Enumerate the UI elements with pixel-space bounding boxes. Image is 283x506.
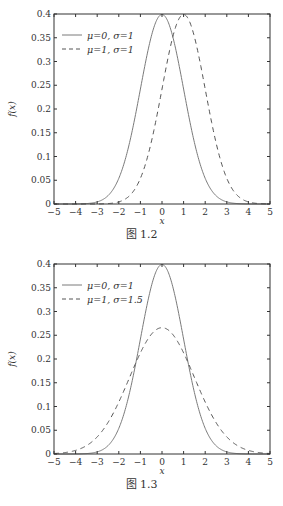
y-tick-label: 0.3 — [37, 57, 52, 67]
y-tick-label: 0.2 — [37, 354, 51, 364]
x-tick-label: 1 — [181, 457, 187, 467]
x-tick-label: 3 — [224, 457, 230, 467]
x-tick-label: −4 — [69, 457, 83, 467]
x-tick-label: −4 — [69, 207, 83, 217]
legend-label: μ=1, σ=1.5 — [87, 294, 143, 305]
x-tick-label: 1 — [181, 207, 187, 217]
legend: μ=0, σ=1μ=1, σ=1 — [62, 30, 134, 55]
plot-frame — [54, 14, 270, 204]
y-tick-label: 0.25 — [31, 330, 51, 340]
y-tick-label: 0.35 — [31, 283, 51, 293]
figure-1-3: −5−4−3−2−101234500.050.10.150.20.250.30.… — [0, 250, 283, 506]
y-tick-label: 0.35 — [31, 33, 51, 43]
y-tick-label: 0.15 — [31, 128, 51, 138]
y-tick-label: 0 — [45, 199, 51, 209]
y-tick-label: 0.3 — [37, 307, 52, 317]
x-tick-label: 2 — [202, 207, 208, 217]
x-tick-label: 5 — [267, 457, 273, 467]
y-tick-label: 0.25 — [31, 80, 51, 90]
y-axis-label: f(x) — [7, 351, 17, 368]
series-line-1 — [54, 328, 270, 454]
y-tick-label: 0.05 — [31, 425, 51, 435]
x-tick-label: 5 — [267, 207, 273, 217]
x-tick-label: −3 — [91, 207, 105, 217]
x-tick-label: −2 — [112, 207, 125, 217]
x-tick-label: −1 — [134, 207, 147, 217]
x-tick-label: 2 — [202, 457, 208, 467]
y-tick-label: 0.4 — [37, 9, 52, 19]
figure-caption: 图 1.3 — [0, 475, 283, 491]
x-tick-label: 3 — [224, 207, 230, 217]
legend: μ=0, σ=1μ=1, σ=1.5 — [62, 280, 143, 305]
legend-label: μ=1, σ=1 — [87, 44, 134, 55]
y-axis-label: f(x) — [7, 101, 17, 118]
x-tick-label: 4 — [246, 457, 252, 467]
y-tick-label: 0 — [45, 449, 51, 459]
y-tick-label: 0.4 — [37, 259, 52, 269]
chart-1-3: −5−4−3−2−101234500.050.10.150.20.250.30.… — [0, 250, 283, 480]
legend-label: μ=0, σ=1 — [87, 280, 134, 291]
y-tick-label: 0.05 — [31, 175, 51, 185]
y-tick-label: 0.15 — [31, 378, 51, 388]
x-tick-label: −1 — [134, 457, 147, 467]
plot-frame — [54, 264, 270, 454]
legend-label: μ=0, σ=1 — [87, 30, 134, 41]
y-tick-label: 0.1 — [37, 402, 51, 412]
figure-caption: 图 1.2 — [0, 225, 283, 241]
y-tick-label: 0.1 — [37, 152, 51, 162]
figure-1-2: −5−4−3−2−101234500.050.10.150.20.250.30.… — [0, 0, 283, 250]
x-tick-label: 4 — [246, 207, 252, 217]
x-tick-label: −2 — [112, 457, 125, 467]
y-tick-label: 0.2 — [37, 104, 51, 114]
x-tick-label: −3 — [91, 457, 105, 467]
chart-1-2: −5−4−3−2−101234500.050.10.150.20.250.30.… — [0, 0, 283, 230]
